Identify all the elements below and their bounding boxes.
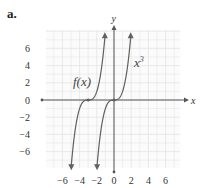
x-tick-label: 0 <box>112 175 117 186</box>
y-axis-arrow-icon <box>112 25 117 30</box>
x-tick-label: −4 <box>74 175 85 186</box>
x-tick-label: −6 <box>57 175 68 186</box>
x-tick-label: 6 <box>163 175 168 186</box>
y-tick-label: −2 <box>19 112 30 123</box>
y-tick-label: 4 <box>25 60 30 71</box>
y-tick-label: 0 <box>25 95 30 106</box>
y-axis-label: y <box>111 13 117 24</box>
x-cubed-exponent: 3 <box>139 55 144 64</box>
x-tick-label: 2 <box>129 175 134 186</box>
curve-x-cubed-inflection-dot <box>112 98 115 101</box>
x-axis-arrow-icon <box>184 98 189 103</box>
y-tick-label: −6 <box>19 146 30 157</box>
x-axis-start-dot <box>41 99 44 102</box>
y-tick-label: −4 <box>19 129 30 140</box>
f-of-x-label: f(x) <box>73 74 91 89</box>
x-tick-label: −2 <box>91 175 102 186</box>
x-axis-label: x <box>190 95 196 106</box>
y-axis-start-dot <box>113 171 116 174</box>
y-tick-label: 6 <box>25 43 30 54</box>
y-tick-label: 2 <box>25 77 30 88</box>
curve-f-of-x-inflection-dot <box>87 98 90 101</box>
cubic-graph: xy−6−4−202466420−2−4−6f(x)x3 <box>0 0 202 188</box>
x-tick-label: 4 <box>146 175 151 186</box>
